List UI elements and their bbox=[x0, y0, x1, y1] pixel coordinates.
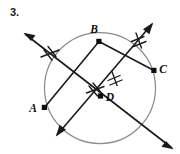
point-label-c: C bbox=[159, 63, 167, 75]
point-label-b: B bbox=[89, 23, 98, 35]
geometry-figure-container: 3. bbox=[0, 0, 180, 154]
point-b-dot bbox=[96, 39, 101, 44]
point-label-d: D bbox=[105, 91, 115, 103]
geometry-diagram: 3. bbox=[0, 0, 180, 154]
point-c-dot bbox=[151, 68, 156, 73]
point-a-dot bbox=[42, 105, 47, 110]
problem-number: 3. bbox=[10, 6, 19, 18]
point-label-a: A bbox=[28, 102, 37, 114]
point-d-dot bbox=[98, 93, 103, 98]
